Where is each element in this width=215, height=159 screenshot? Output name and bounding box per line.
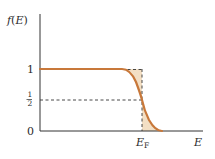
tick-half-numerator: 1	[28, 90, 33, 99]
fermi-dirac-chart: f(E) 1 1 2 0 E EF	[0, 0, 215, 159]
tick-one: 1	[27, 63, 34, 76]
tick-zero: 0	[27, 125, 34, 138]
x-axis-label: E	[193, 136, 202, 149]
fermi-label-sub: F	[144, 141, 149, 150]
y-axis-label: f(E)	[6, 14, 28, 27]
fermi-label-main: E	[135, 136, 144, 149]
fermi-energy-label: EF	[135, 136, 149, 150]
tick-half-denominator: 2	[28, 99, 33, 108]
